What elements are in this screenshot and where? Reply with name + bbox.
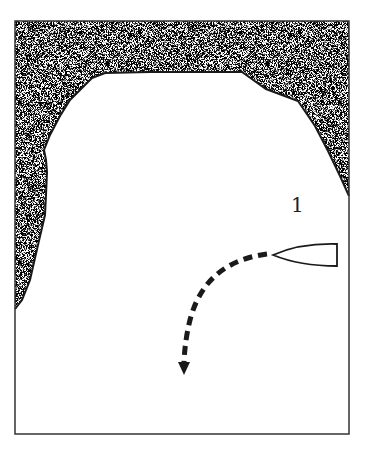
bay-diagram <box>0 0 368 453</box>
position-label-1: 1 <box>291 193 304 217</box>
boat-icon <box>273 244 337 266</box>
land-stipple <box>15 21 349 309</box>
course-path <box>184 254 267 362</box>
arrow-head-icon <box>178 362 190 375</box>
coastline <box>15 72 349 309</box>
